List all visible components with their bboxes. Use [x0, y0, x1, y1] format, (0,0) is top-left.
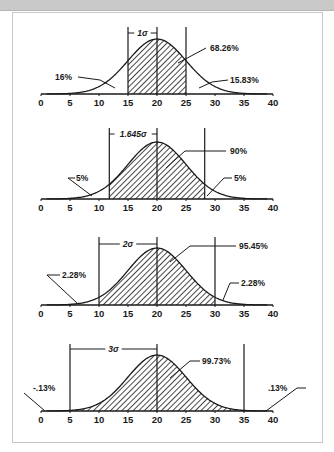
left-tail-label: 2.28%	[62, 270, 87, 280]
x-tick-label: 5	[67, 97, 73, 108]
x-tick-label: 20	[152, 97, 163, 108]
x-tick-label: 10	[94, 97, 105, 108]
chart-2: 05101520253035401.645σ90%5%5%	[38, 128, 278, 213]
right-leader	[199, 80, 228, 88]
x-tick-label: 10	[94, 202, 105, 213]
x-tick-label: 15	[123, 308, 134, 319]
x-tick-label: 5	[67, 202, 73, 213]
x-tick-label: 40	[268, 414, 279, 425]
x-tick-label: 25	[181, 97, 192, 108]
x-tick-label: 15	[123, 97, 134, 108]
center-percent-label: 95.45%	[239, 241, 268, 251]
left-tail-label: -.13%	[33, 383, 56, 393]
sigma-bracket-label: 2σ	[122, 239, 134, 249]
x-tick-label: 10	[94, 414, 105, 425]
chart-1: 05101520253035401σ68.26%16%15.83%	[38, 27, 278, 108]
right-tail-label: 2.28%	[241, 278, 266, 288]
x-tick-label: 15	[123, 414, 134, 425]
left-tail-label: 16%	[55, 72, 72, 82]
right-leader	[223, 283, 239, 300]
x-tick-label: 5	[67, 414, 73, 425]
x-tick-label: 30	[210, 414, 221, 425]
x-tick-label: 35	[239, 308, 250, 319]
right-tail-label: .13%	[268, 383, 288, 393]
x-tick-label: 40	[268, 97, 279, 108]
x-tick-label: 40	[268, 308, 279, 319]
center-percent-label: 68.26%	[210, 43, 239, 53]
x-tick-label: 30	[210, 202, 221, 213]
sigma-bracket-label: 1σ	[137, 28, 148, 38]
x-tick-label: 35	[239, 97, 250, 108]
right-tail-label: 5%	[234, 173, 247, 183]
right-tail-label: 15.83%	[230, 75, 259, 85]
sigma-bracket-label: 3σ	[108, 344, 119, 354]
sigma-bracket-label: 1.645σ	[120, 129, 147, 139]
center-leader	[170, 246, 236, 262]
x-tick-label: 0	[38, 202, 43, 213]
center-percent-label: 99.73%	[202, 356, 231, 366]
x-tick-label: 25	[181, 414, 192, 425]
x-tick-label: 40	[268, 202, 279, 213]
x-tick-label: 35	[239, 414, 250, 425]
x-tick-label: 20	[152, 202, 163, 213]
x-tick-label: 15	[123, 202, 134, 213]
x-tick-label: 20	[152, 308, 163, 319]
x-tick-label: 25	[181, 202, 192, 213]
left-tail-label: 5%	[76, 173, 89, 183]
x-tick-label: 30	[210, 308, 221, 319]
x-tick-label: 0	[38, 97, 43, 108]
x-tick-label: 10	[94, 308, 105, 319]
x-tick-label: 0	[38, 414, 43, 425]
normal-distribution-charts: 05101520253035401σ68.26%16%15.83%0510152…	[0, 0, 334, 452]
x-tick-label: 25	[181, 308, 192, 319]
x-tick-label: 5	[67, 308, 73, 319]
x-tick-label: 20	[152, 414, 163, 425]
x-tick-label: 30	[210, 97, 221, 108]
x-tick-label: 0	[38, 308, 43, 319]
chart-3: 05101520253035402σ95.45%2.28%2.28%	[38, 237, 278, 319]
left-leader	[78, 77, 115, 88]
chart-4: 05101520253035403σ99.73%-.13%.13%	[24, 344, 306, 425]
x-tick-label: 35	[239, 202, 250, 213]
center-percent-label: 90%	[230, 146, 247, 156]
left-leader	[24, 393, 45, 411]
